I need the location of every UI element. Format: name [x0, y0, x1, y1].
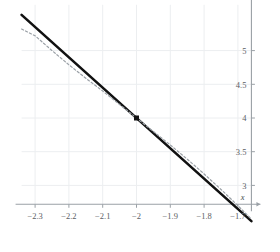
y-tick-label-4: 3 — [242, 181, 246, 191]
y-tick-label-0: 5 — [242, 46, 246, 56]
tangent-line-chart: −2.3−2.2−2.1−2−1.9−1.8−1.754.543.53yx — [0, 0, 280, 252]
x-tick-label-2: −2.1 — [95, 211, 110, 221]
grid-lines — [22, 5, 252, 205]
marker-tangency-point — [134, 116, 139, 121]
x-tick-label-5: −1.8 — [196, 211, 211, 221]
axes — [16, 0, 261, 211]
y-tick-label-2: 4 — [242, 113, 247, 123]
x-tick-label-4: −1.9 — [163, 211, 178, 221]
x-axis-name: x — [240, 192, 245, 202]
x-tick-label-6: −1.7 — [230, 211, 245, 221]
y-tick-label-1: 4.5 — [236, 80, 247, 90]
x-tick-label-0: −2.3 — [27, 211, 42, 221]
x-tick-label-3: −2 — [132, 211, 141, 221]
y-tick-label-3: 3.5 — [236, 147, 247, 157]
x-tick-label-1: −2.2 — [61, 211, 76, 221]
x-axis-arrow — [256, 202, 260, 206]
chart-canvas: −2.3−2.2−2.1−2−1.9−1.8−1.754.543.53yx — [0, 0, 280, 252]
tick-labels: −2.3−2.2−2.1−2−1.9−1.8−1.754.543.53yx — [27, 0, 260, 221]
